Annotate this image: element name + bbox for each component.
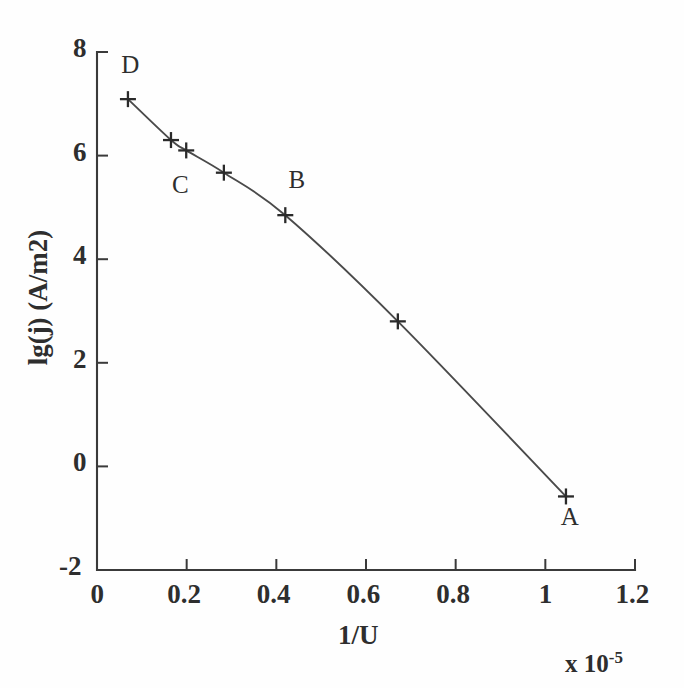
point-label-D: D	[121, 51, 139, 79]
ytick-label-0: 8	[73, 33, 87, 64]
chart-figure: 00.20.40.60.811.286420-21/Ux 10-5lg(j) (…	[0, 0, 684, 688]
xtick-label-0: 0	[91, 579, 105, 610]
xtick-label-2: 0.4	[257, 579, 291, 610]
data-markers	[120, 91, 574, 504]
ytick-label-1: 6	[73, 137, 87, 168]
x-axis-exponent: x 10-5	[565, 648, 623, 678]
curve-path	[128, 99, 566, 496]
ytick-label-3: 2	[73, 344, 87, 375]
marker-2	[178, 142, 194, 158]
x-axis-title: 1/U	[338, 620, 379, 651]
axis-spines	[97, 52, 635, 570]
xtick-label-3: 0.6	[347, 579, 381, 610]
xtick-label-4: 0.8	[436, 579, 470, 610]
xtick-label-6: 1.2	[616, 579, 650, 610]
ytick-label-2: 4	[73, 240, 87, 271]
point-label-C: C	[172, 171, 189, 199]
y-axis-title: lg(j) (A/m2)	[23, 188, 54, 408]
xtick-label-5: 1	[539, 579, 553, 610]
tick-marks	[97, 52, 635, 570]
point-label-A: A	[561, 503, 579, 531]
point-label-B: B	[289, 166, 306, 194]
data-curve	[128, 99, 566, 496]
axes	[97, 52, 635, 570]
marker-3	[216, 165, 232, 181]
ytick-label-4: 0	[73, 447, 87, 478]
ytick-label-5: -2	[59, 551, 82, 582]
xtick-label-1: 0.2	[167, 579, 201, 610]
